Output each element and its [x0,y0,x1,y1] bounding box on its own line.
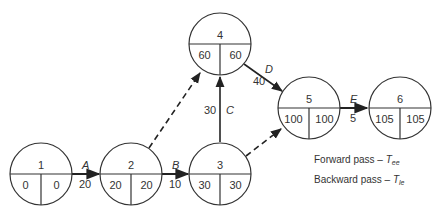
node-id: 4 [217,29,223,41]
edge-c-duration: 30 [204,104,216,116]
network-diagram: A 20 B 10 30 C D 40 E 5 1002202033030460… [0,0,437,212]
edge-dummy-3-5 [246,129,281,156]
node-3: 33030 [189,143,251,205]
node-early-time: 20 [109,179,121,191]
node-late-time: 0 [53,179,59,191]
edge-a-duration: 20 [79,178,91,190]
node-early-time: 60 [198,49,210,61]
node-early-time: 100 [284,113,302,125]
edge-b-activity: B [172,159,179,171]
node-early-time: 30 [198,179,210,191]
node-id: 2 [128,159,134,171]
node-id: 6 [397,93,403,105]
edge-e-duration: 5 [350,112,356,124]
legend-backward-pass: Backward pass – Tle [314,174,405,186]
edge-d-duration: 40 [253,75,265,87]
node-late-time: 20 [140,179,152,191]
legend-forward-pass: Forward pass – Tee [314,154,400,166]
node-late-time: 105 [406,113,424,125]
edge-b-duration: 10 [169,178,181,190]
node-id: 1 [38,159,44,171]
edge-e-activity: E [350,93,358,105]
node-early-time: 105 [375,113,393,125]
node-late-time: 30 [229,179,241,191]
edge-a-activity: A [81,159,89,171]
node-6: 6105105 [369,77,431,139]
node-late-time: 60 [229,49,241,61]
edge-dummy-2-4 [149,73,200,148]
node-id: 3 [217,159,223,171]
node-early-time: 0 [22,179,28,191]
node-4: 46060 [189,13,251,75]
node-5: 5100100 [278,77,340,139]
node-late-time: 100 [315,113,333,125]
legend: Forward pass – Tee Backward pass – Tle [314,154,405,186]
node-1: 100 [10,143,72,205]
edge-d-activity: D [265,63,273,75]
edge-c-activity: C [226,104,234,116]
node-2: 22020 [100,143,162,205]
node-id: 5 [306,93,312,105]
